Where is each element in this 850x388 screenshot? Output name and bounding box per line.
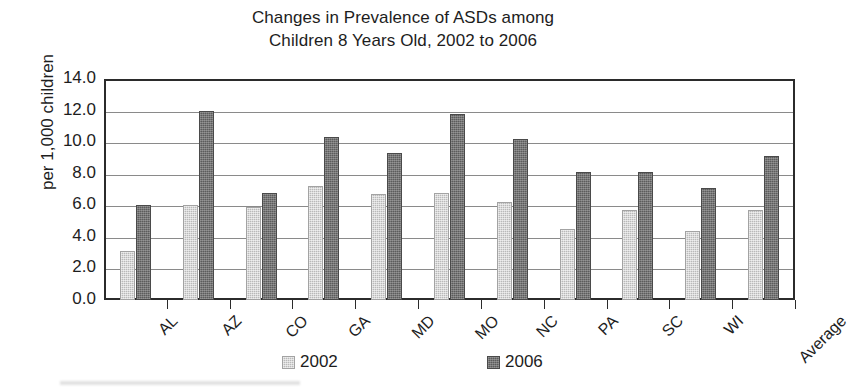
bar-group xyxy=(183,0,214,300)
x-tick-mark xyxy=(481,300,482,309)
bar-sc-2002 xyxy=(622,210,637,300)
legend-item-2006: 2006 xyxy=(487,352,543,372)
x-tick-label-pa: PA xyxy=(595,312,622,339)
x-tick-mark xyxy=(669,300,670,309)
x-tick-label-al: AL xyxy=(155,312,182,339)
x-tick-label-az: AZ xyxy=(218,312,245,339)
x-tick-mark xyxy=(418,300,419,309)
bar-pa-2006 xyxy=(576,172,591,300)
bar-md-2006 xyxy=(387,153,402,300)
x-tick-label-co: CO xyxy=(282,312,312,342)
bar-group xyxy=(434,0,465,300)
bar-wi-2006 xyxy=(701,188,716,300)
bar-ga-2002 xyxy=(308,186,323,300)
bar-group xyxy=(371,0,402,300)
bar-co-2006 xyxy=(262,193,277,300)
bar-group xyxy=(622,0,653,300)
bar-az-2006 xyxy=(199,111,214,300)
bar-al-2002 xyxy=(120,251,135,300)
bar-mo-2002 xyxy=(434,193,449,300)
bar-md-2002 xyxy=(371,194,386,300)
legend-item-2002: 2002 xyxy=(282,352,338,372)
bar-ga-2006 xyxy=(324,137,339,300)
legend-swatch-2002-icon xyxy=(282,356,295,369)
bar-nc-2002 xyxy=(497,202,512,300)
chart-legend: 2002 2006 xyxy=(0,352,806,378)
x-tick-mark xyxy=(544,300,545,309)
bar-group xyxy=(120,0,151,300)
legend-label-2002: 2002 xyxy=(300,352,338,372)
x-tick-mark xyxy=(732,300,733,309)
x-tick-label-mo: MO xyxy=(471,312,502,343)
x-tick-mark xyxy=(167,300,168,309)
bar-group xyxy=(308,0,339,300)
x-tick-mark xyxy=(230,300,231,309)
x-tick-mark xyxy=(292,300,293,309)
bar-average-2002 xyxy=(748,210,763,300)
bar-group xyxy=(246,0,277,300)
bar-nc-2006 xyxy=(513,139,528,300)
bar-group xyxy=(748,0,779,300)
bar-group xyxy=(497,0,528,300)
x-tick-label-sc: SC xyxy=(658,312,686,340)
legend-label-2006: 2006 xyxy=(505,352,543,372)
bar-co-2002 xyxy=(246,207,261,300)
bar-group xyxy=(685,0,716,300)
x-tick-mark xyxy=(795,300,796,309)
scan-artifact xyxy=(60,381,300,385)
bar-wi-2002 xyxy=(685,231,700,300)
bar-sc-2006 xyxy=(638,172,653,300)
bar-group xyxy=(560,0,591,300)
bar-average-2006 xyxy=(764,156,779,300)
bar-az-2002 xyxy=(183,205,198,300)
legend-swatch-2006-icon xyxy=(487,356,500,369)
x-tick-label-wi: WI xyxy=(720,312,747,339)
x-tick-label-md: MD xyxy=(408,312,438,342)
x-tick-mark xyxy=(607,300,608,309)
x-tick-label-nc: NC xyxy=(533,312,562,341)
x-tick-mark xyxy=(355,300,356,309)
bar-pa-2002 xyxy=(560,229,575,300)
bar-mo-2006 xyxy=(450,114,465,300)
bar-al-2006 xyxy=(136,205,151,300)
x-tick-label-ga: GA xyxy=(345,312,374,341)
